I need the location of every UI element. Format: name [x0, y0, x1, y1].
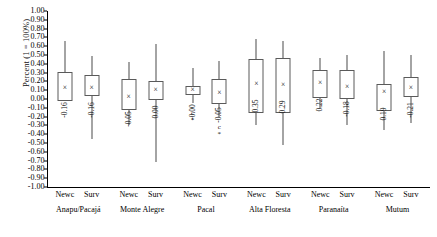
mean-marker: × [345, 83, 349, 91]
box-value-label: 0.35 [253, 99, 261, 112]
x-axis-group-label: Paranaíta [319, 205, 349, 214]
mean-marker: × [318, 79, 322, 87]
y-axis-tick-mark [44, 116, 47, 117]
x-axis-tick-label: Newc [311, 190, 330, 199]
y-axis-line [47, 11, 48, 187]
x-axis-group-label: Mutum [386, 205, 410, 214]
mean-marker: × [217, 89, 221, 97]
y-axis-tick-mark [44, 37, 47, 38]
mean-marker: × [409, 84, 413, 92]
box-value-label: 0.19 [380, 107, 388, 120]
box-value-label: -0.16 [61, 102, 69, 118]
boxplot-chart: Percent (1 = 100%) 1.000.900.800.700.600… [0, 0, 437, 237]
y-axis-tick-mark [44, 55, 47, 56]
y-axis-tick-mark [44, 125, 47, 126]
x-axis-group-label: Monte Alegre [120, 205, 164, 214]
x-axis-tick-label: Surv [276, 190, 291, 199]
y-axis-tick-mark [44, 81, 47, 82]
box-value-label: 0.00 [152, 106, 160, 119]
y-axis-tick-mark [44, 63, 47, 64]
x-axis-tick-label: Surv [148, 190, 163, 199]
y-axis-tick-mark [44, 134, 47, 135]
x-axis-tick-label: Surv [339, 190, 354, 199]
x-axis-group-label: Anapu/Pacajá [56, 205, 100, 214]
mean-marker: × [190, 86, 194, 94]
y-axis-tick-mark [44, 11, 47, 12]
mean-marker: × [63, 84, 67, 92]
mean-marker: × [127, 93, 131, 101]
x-axis-tick-label: Newc [247, 190, 266, 199]
x-axis-group-label: Alta Floresta [249, 205, 291, 214]
y-axis-tick-mark [44, 169, 47, 170]
whisker-line [91, 56, 92, 139]
mean-marker: × [382, 88, 386, 96]
box-value-label: -0.05 [216, 107, 224, 123]
box-value-label: -0.16 [88, 102, 96, 118]
outlier-marker: * [191, 116, 195, 123]
y-axis-tick-mark [44, 28, 47, 29]
y-axis-tick-mark [44, 160, 47, 161]
x-axis-tick-label: Surv [84, 190, 99, 199]
x-axis: NewcSurvNewcSurvNewcSurvNewcSurvNewcSurv… [47, 190, 430, 237]
x-axis-tick-label: Newc [119, 190, 138, 199]
x-axis-tick-label: Surv [212, 190, 227, 199]
x-axis-tick-label: Newc [183, 190, 202, 199]
y-axis-tick-mark [44, 99, 47, 100]
y-axis-tick-mark [44, 90, 47, 91]
y-axis-tick-mark [44, 19, 47, 20]
y-axis-tick-mark [44, 72, 47, 73]
mean-marker: × [90, 84, 94, 92]
y-axis-tick-mark [44, 151, 47, 152]
y-axis-tick-mark [44, 143, 47, 144]
y-axis-tick-mark [44, 107, 47, 108]
y-axis-tick-mark [44, 178, 47, 179]
box-value-label: -0.05 [125, 111, 133, 127]
x-axis-tick-label: Newc [375, 190, 394, 199]
y-axis-tick-mark [44, 187, 47, 188]
box-value-label: 0.29 [279, 100, 287, 113]
box-value-label: -0.18 [343, 101, 351, 117]
box-value-label: 0.22 [316, 99, 324, 112]
x-axis-tick-label: Surv [403, 190, 418, 199]
mean-marker: × [254, 80, 258, 88]
x-axis-tick-label: Newc [56, 190, 75, 199]
outlier-marker: * [218, 130, 222, 137]
mean-marker: × [281, 81, 285, 89]
x-axis-group-label: Pacal [197, 205, 214, 214]
y-axis-tick-mark [44, 46, 47, 47]
mean-marker: × [153, 86, 157, 94]
box-value-label: -0.21 [407, 102, 415, 118]
whisker-line [155, 44, 156, 162]
plot-area: 1.000.900.800.700.600.500.400.300.200.10… [47, 11, 430, 187]
x-axis-line [47, 187, 430, 188]
